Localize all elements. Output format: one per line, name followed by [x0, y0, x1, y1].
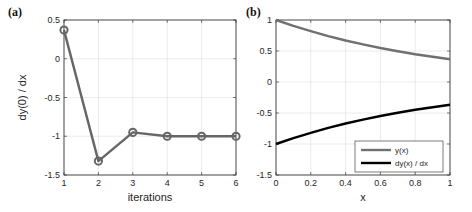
y-tick-label: -0.5	[44, 93, 60, 103]
y-tick-label: 0	[55, 54, 60, 64]
y-tick-label: -1.5	[256, 170, 272, 180]
x-tick-label: 1	[61, 178, 66, 188]
y-tick-label: 0	[267, 77, 272, 87]
legend: y(x)dy(x) / dx	[355, 141, 443, 172]
chart-panel-b: 00.20.40.60.81-1.5-1-0.500.51x(b)y(x)dy(…	[246, 5, 453, 203]
legend-label: y(x)	[395, 146, 409, 155]
x-tick-label: 0	[273, 178, 278, 188]
panel-label: (b)	[246, 5, 261, 19]
x-tick-label: 6	[233, 178, 238, 188]
x-axis-label: x	[360, 191, 366, 203]
y-tick-label: 0.5	[47, 15, 60, 25]
y-tick-label: -1	[264, 139, 272, 149]
x-tick-label: 0.2	[305, 178, 318, 188]
x-tick-label: 5	[199, 178, 204, 188]
x-tick-label: 0.4	[339, 178, 352, 188]
x-tick-label: 3	[130, 178, 135, 188]
panel-label: (a)	[8, 5, 22, 19]
y-tick-label: -0.5	[256, 108, 272, 118]
y-tick-label: 1	[267, 15, 272, 25]
x-tick-label: 1	[447, 178, 452, 188]
x-tick-label: 0.6	[374, 178, 387, 188]
x-tick-label: 4	[165, 178, 170, 188]
legend-label: dy(x) / dx	[395, 159, 428, 168]
y-tick-label: -1	[52, 131, 60, 141]
x-axis-label: iterations	[128, 191, 173, 203]
y-tick-label: -1.5	[44, 170, 60, 180]
chart-panel-a: 123456-1.5-1-0.500.5iterationsdy(0) / dx…	[8, 5, 240, 203]
x-tick-label: 0.8	[409, 178, 422, 188]
y-tick-label: 0.5	[259, 46, 272, 56]
figure: 123456-1.5-1-0.500.5iterationsdy(0) / dx…	[0, 0, 472, 212]
y-axis-label: dy(0) / dx	[16, 74, 28, 120]
x-tick-label: 2	[96, 178, 101, 188]
